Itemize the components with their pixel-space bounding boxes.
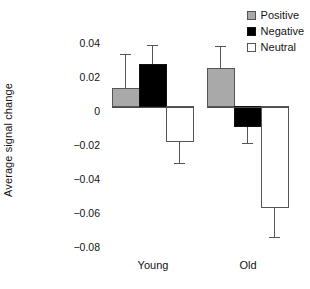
bar-old-negative bbox=[234, 106, 262, 127]
errorbar-cap-young-positive bbox=[120, 54, 131, 55]
errorbar-young-negative bbox=[152, 45, 153, 64]
errorbar-cap-old-negative bbox=[242, 143, 253, 144]
bar-old-positive bbox=[207, 68, 235, 107]
legend-label-negative: Negative bbox=[261, 26, 304, 37]
bar-young-positive bbox=[112, 88, 140, 107]
gray-swatch-icon bbox=[247, 11, 256, 20]
y-tick-6: −0.08 bbox=[42, 242, 100, 252]
black-swatch-icon bbox=[247, 27, 256, 36]
legend-label-neutral: Neutral bbox=[261, 42, 296, 53]
errorbar-cap-old-neutral bbox=[269, 237, 280, 238]
zero-line-young bbox=[112, 107, 194, 108]
legend-item-positive: Positive bbox=[247, 8, 304, 23]
y-axis-ticks: 0.04 0.02 0 −0.02 −0.04 −0.06 −0.08 bbox=[40, 0, 100, 289]
y-axis-label: Average signal change bbox=[2, 60, 22, 220]
bar-young-negative bbox=[139, 64, 167, 107]
bar-young-neutral bbox=[166, 106, 194, 142]
y-tick-0: 0.04 bbox=[42, 38, 100, 48]
legend-item-neutral: Neutral bbox=[247, 40, 304, 55]
errorbar-old-neutral bbox=[274, 208, 275, 237]
errorbar-old-positive bbox=[220, 46, 221, 68]
legend-item-negative: Negative bbox=[247, 24, 304, 39]
white-swatch-icon bbox=[247, 43, 256, 52]
y-tick-4: −0.04 bbox=[42, 174, 100, 184]
legend-label-positive: Positive bbox=[261, 10, 300, 21]
errorbar-young-neutral bbox=[179, 142, 180, 163]
chart-figure: Average signal change 0.04 0.02 0 −0.02 … bbox=[0, 0, 310, 289]
errorbar-cap-old-positive bbox=[215, 46, 226, 47]
bar-old-neutral bbox=[261, 106, 289, 208]
y-tick-3: −0.02 bbox=[42, 140, 100, 150]
errorbar-young-positive bbox=[125, 54, 126, 88]
errorbar-cap-young-neutral bbox=[174, 163, 185, 164]
errorbar-cap-young-negative bbox=[147, 45, 158, 46]
y-tick-2: 0 bbox=[42, 106, 100, 116]
errorbar-old-negative bbox=[247, 127, 248, 143]
y-tick-1: 0.02 bbox=[42, 72, 100, 82]
x-tick-young: Young bbox=[118, 259, 188, 271]
y-tick-5: −0.06 bbox=[42, 208, 100, 218]
x-tick-old: Old bbox=[213, 259, 283, 271]
zero-line-old bbox=[207, 107, 289, 108]
chart-legend: Positive Negative Neutral bbox=[247, 8, 304, 56]
